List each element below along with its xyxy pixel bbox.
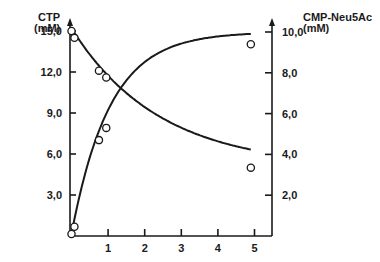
left-axis-tick-label: 6,0: [47, 148, 62, 160]
open-circle-marker-icon: [68, 230, 75, 237]
curves: [72, 31, 251, 234]
right-axis-tick-label: 4,0: [282, 148, 297, 160]
open-circle-marker-icon: [247, 164, 254, 171]
right-axis-tick-label: 6,0: [282, 108, 297, 120]
open-circle-marker-icon: [103, 124, 110, 131]
chart: 3,06,09,012,015,02,04,06,08,010,012345 C…: [0, 0, 380, 262]
right-axis-title-line2: (mM): [303, 22, 330, 34]
x-axis-tick-label: 3: [178, 242, 184, 254]
open-circle-marker-icon: [71, 223, 78, 230]
left-axis-arrow-icon: [67, 18, 73, 26]
left-axis-title-line2: (mM): [34, 22, 61, 34]
axes: [67, 18, 275, 236]
x-axis-tick-label: 1: [105, 242, 111, 254]
open-circle-marker-icon: [103, 74, 110, 81]
left-axis-tick-label: 12,0: [41, 66, 62, 78]
tick-labels: 3,06,09,012,015,02,04,06,08,010,012345: [41, 25, 304, 254]
markers: [68, 27, 255, 237]
right-axis-arrow-icon: [269, 18, 275, 26]
right-axis-tick-label: 10,0: [282, 26, 303, 38]
left-axis-tick-label: 3,0: [47, 189, 62, 201]
open-circle-marker-icon: [71, 34, 78, 41]
x-axis-tick-label: 5: [251, 242, 257, 254]
open-circle-marker-icon: [95, 137, 102, 144]
right-axis-tick-label: 8,0: [282, 67, 297, 79]
open-circle-marker-icon: [247, 41, 254, 48]
open-circle-marker-icon: [68, 27, 75, 34]
x-axis-tick-label: 2: [142, 242, 148, 254]
x-axis-tick-label: 4: [215, 242, 222, 254]
open-circle-marker-icon: [95, 67, 102, 74]
right-axis-tick-label: 2,0: [282, 189, 297, 201]
left-axis-tick-label: 9,0: [47, 107, 62, 119]
